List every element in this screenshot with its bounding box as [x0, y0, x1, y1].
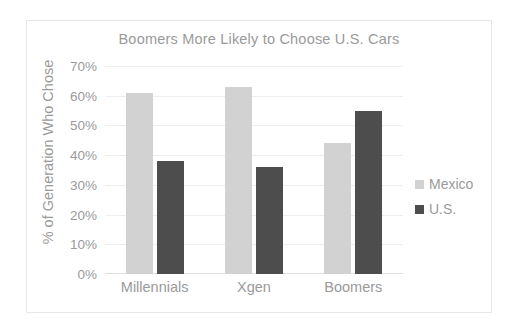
y-axis-tick-label: 0%	[53, 267, 97, 282]
bar-group	[304, 66, 403, 274]
legend-swatch-icon	[415, 205, 424, 214]
x-axis-tick-label: Boomers	[304, 279, 403, 295]
legend-label: U.S.	[429, 201, 456, 217]
chart-title: Boomers More Likely to Choose U.S. Cars	[27, 31, 491, 47]
chart-frame: Boomers More Likely to Choose U.S. Cars …	[26, 20, 492, 313]
bar-us-xgen[interactable]	[256, 167, 283, 274]
y-axis-tick-label: 70%	[53, 59, 97, 74]
legend-item[interactable]: Mexico	[415, 176, 473, 192]
bar-mexico-millennials[interactable]	[126, 93, 153, 274]
x-axis-tick-labels: MillennialsXgenBoomers	[105, 279, 403, 295]
y-axis-tick-label: 30%	[53, 177, 97, 192]
legend-item[interactable]: U.S.	[415, 201, 473, 217]
bar-mexico-boomers[interactable]	[324, 143, 351, 274]
bar-us-boomers[interactable]	[355, 111, 382, 274]
bar-mexico-xgen[interactable]	[225, 87, 252, 274]
y-axis-tick-label: 20%	[53, 207, 97, 222]
y-axis-tick-label: 50%	[53, 118, 97, 133]
bar-group	[204, 66, 303, 274]
bars-layer	[105, 66, 403, 274]
plot-area	[105, 66, 403, 274]
y-axis-tick-label: 60%	[53, 88, 97, 103]
y-axis-tick-label: 40%	[53, 148, 97, 163]
bar-us-millennials[interactable]	[157, 161, 184, 274]
y-axis-tick-label: 10%	[53, 237, 97, 252]
legend-label: Mexico	[429, 176, 473, 192]
chart-legend: MexicoU.S.	[415, 176, 473, 226]
legend-swatch-icon	[415, 180, 424, 189]
y-axis-tick-labels: 70%60%50%40%30%20%10%0%	[53, 66, 97, 274]
x-axis-tick-label: Xgen	[204, 279, 303, 295]
x-axis-tick-label: Millennials	[105, 279, 204, 295]
bar-group	[105, 66, 204, 274]
